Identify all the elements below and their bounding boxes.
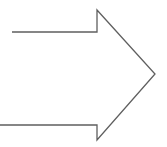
arrow-diagram-canvas: right-pointing arrow outline <box>0 0 167 147</box>
arrow-svg <box>0 0 167 147</box>
